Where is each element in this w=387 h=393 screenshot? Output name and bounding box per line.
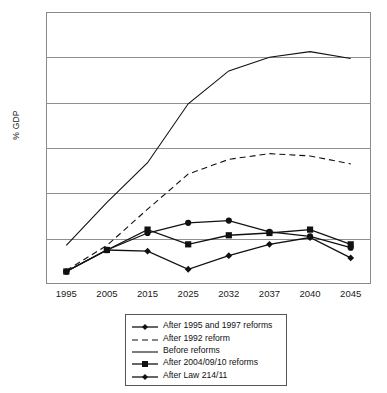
x-axis-tick-labels: 19952005201520252032203720402045	[46, 288, 371, 304]
legend-label: After Law 214/11	[160, 370, 227, 380]
x-axis-tick-label: 2045	[340, 288, 361, 299]
data-point-marker	[307, 227, 313, 233]
data-point-marker	[185, 220, 191, 226]
legend-label: After 2004/09/10 reforms	[160, 357, 258, 367]
y-axis-title: % GDP	[11, 95, 21, 155]
legend-item: Before reforms	[130, 344, 281, 356]
data-point-marker	[266, 230, 272, 236]
data-point-marker	[226, 232, 232, 238]
legend-swatch-icon	[130, 369, 160, 381]
x-axis-tick-label: 2005	[96, 288, 117, 299]
legend-item: After 1995 and 1997 reforms	[130, 319, 281, 331]
x-axis-tick-label: 2037	[259, 288, 280, 299]
legend-swatch-icon	[130, 344, 160, 356]
chart-legend: After 1995 and 1997 reformsAfter 1992 re…	[125, 314, 287, 386]
legend-item: After 1992 reform	[130, 331, 281, 343]
legend-item: After 2004/09/10 reforms	[130, 356, 281, 368]
plot-area	[46, 12, 371, 284]
x-axis-tick-label: 2040	[299, 288, 320, 299]
data-point-marker	[226, 217, 232, 223]
data-point-marker	[144, 227, 150, 233]
x-axis-tick-label: 2032	[218, 288, 239, 299]
data-point-marker	[348, 241, 354, 247]
legend-swatch-icon	[130, 356, 160, 368]
x-axis-tick-label: 1995	[56, 288, 77, 299]
legend-label: After 1992 reform	[160, 333, 230, 343]
x-axis-tick-label: 2015	[137, 288, 158, 299]
data-point-marker	[144, 248, 151, 255]
data-point-marker	[266, 241, 273, 248]
x-axis-tick-label: 2025	[178, 288, 199, 299]
legend-swatch-icon	[130, 332, 160, 344]
series-line	[66, 52, 350, 246]
data-point-marker	[347, 255, 354, 262]
legend-label: After 1995 and 1997 reforms	[160, 320, 272, 330]
chart-canvas	[46, 12, 371, 284]
data-point-marker	[185, 241, 191, 247]
data-point-marker	[225, 252, 232, 259]
series-line	[66, 238, 350, 272]
data-point-marker	[185, 266, 192, 273]
legend-item: After Law 214/11	[130, 369, 281, 381]
legend-swatch-icon	[130, 319, 160, 331]
legend-label: Before reforms	[160, 345, 220, 355]
chart-container: % GDP 13151719212325 1995200520152025203…	[0, 0, 387, 393]
